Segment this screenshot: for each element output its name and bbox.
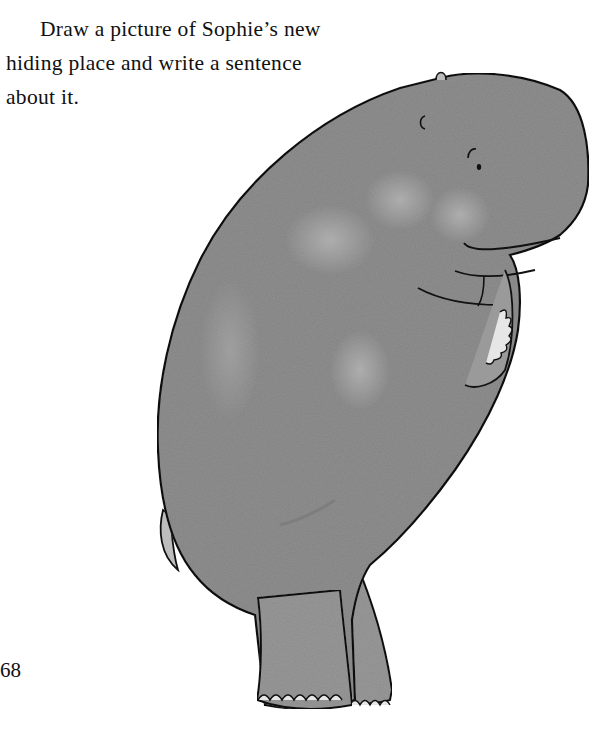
hippo-eye-icon (477, 164, 481, 170)
hippo-ear (436, 73, 446, 81)
hippo-illustration (0, 0, 598, 747)
hippo-front-leg (257, 590, 352, 709)
page-number: 68 (0, 658, 21, 683)
